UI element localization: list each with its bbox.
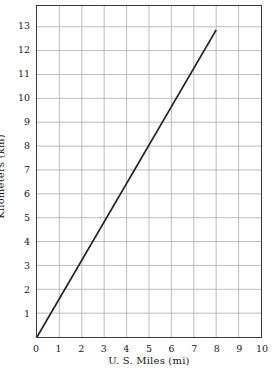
y-tick-label: 11 (6, 69, 30, 79)
data-line-series (37, 6, 261, 337)
y-tick-label: 8 (6, 141, 30, 151)
plot-area (36, 5, 262, 338)
y-tick-label: 2 (6, 285, 30, 295)
y-tick-label: 10 (6, 93, 30, 103)
x-tick-label: 3 (101, 344, 107, 354)
x-tick-label: 9 (236, 344, 242, 354)
x-tick-label: 1 (56, 344, 62, 354)
x-tick-label: 7 (191, 344, 197, 354)
y-tick-label: 1 (6, 309, 30, 319)
y-tick-label: 9 (6, 117, 30, 127)
y-tick-label: 4 (6, 237, 30, 247)
x-tick-label: 0 (33, 344, 39, 354)
y-tick-label: 7 (6, 165, 30, 175)
data-line (37, 30, 216, 337)
x-tick-label: 6 (169, 344, 175, 354)
y-tick-label: 13 (6, 21, 30, 31)
x-tick-label: 8 (214, 344, 220, 354)
x-tick-label: 2 (78, 344, 84, 354)
y-tick-label: 6 (6, 189, 30, 199)
y-tick-label: 3 (6, 261, 30, 271)
y-axis-title: Kilometers (km) (0, 134, 6, 219)
x-tick-label: 4 (123, 344, 129, 354)
x-tick-label: 10 (256, 344, 268, 354)
x-tick-label: 5 (146, 344, 152, 354)
conversion-graph-figure: 12345678910111213 012345678910 U. S. Mil… (0, 0, 277, 374)
y-tick-label: 12 (6, 45, 30, 55)
x-axis-title: U. S. Miles (mi) (36, 355, 262, 366)
y-tick-label: 5 (6, 213, 30, 223)
